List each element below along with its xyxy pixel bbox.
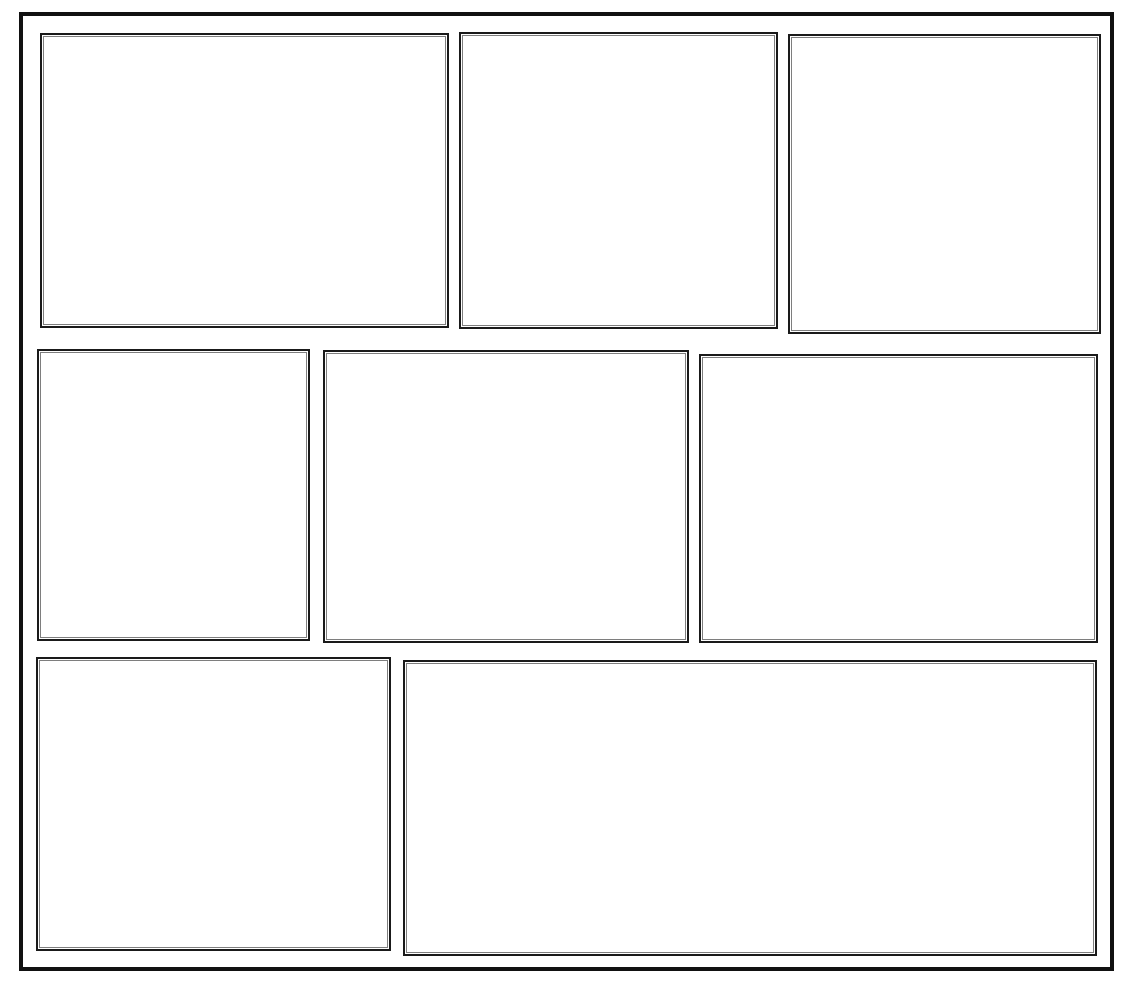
- comic-panel-6[interactable]: [699, 354, 1098, 643]
- page-border-frame: [19, 12, 1114, 971]
- comic-panel-1[interactable]: [40, 33, 449, 328]
- panel-2-content: [461, 34, 776, 327]
- comic-panel-5[interactable]: [323, 350, 689, 643]
- comic-page-canvas: [0, 0, 1127, 985]
- comic-panel-2[interactable]: [459, 32, 778, 329]
- comic-panel-4[interactable]: [37, 349, 310, 641]
- panel-3-content: [790, 36, 1099, 332]
- panel-8-content: [405, 662, 1095, 954]
- panel-5-content: [325, 352, 687, 641]
- comic-panel-7[interactable]: [36, 657, 391, 951]
- panel-7-content: [38, 659, 389, 949]
- panel-4-content: [39, 351, 308, 639]
- comic-panel-3[interactable]: [788, 34, 1101, 334]
- comic-panel-8[interactable]: [403, 660, 1097, 956]
- panel-1-content: [42, 35, 447, 326]
- panel-6-content: [701, 356, 1096, 641]
